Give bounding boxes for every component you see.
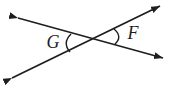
angle-f-arc	[114, 29, 119, 44]
line-upperleft-lowerright	[18, 18, 163, 58]
angle-g-label: G	[47, 32, 60, 52]
angle-f-label: F	[127, 23, 140, 43]
geometry-diagram-canvas: G F	[0, 0, 173, 85]
intersecting-lines-figure: G F	[0, 0, 173, 85]
